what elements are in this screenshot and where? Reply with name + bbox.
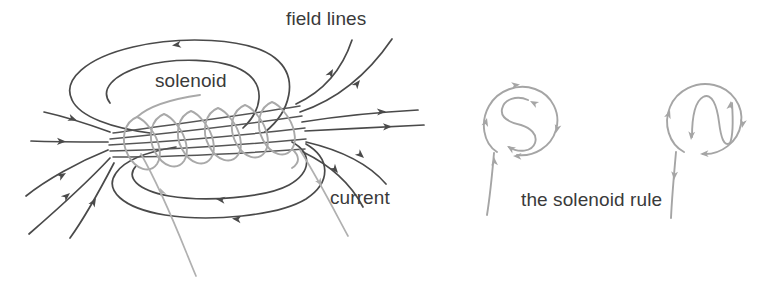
label-current: current bbox=[330, 187, 390, 209]
solenoid-figure: field lines solenoid current the solenoi… bbox=[0, 0, 768, 282]
label-field-lines: field lines bbox=[286, 8, 366, 30]
field-lines-left bbox=[26, 112, 114, 238]
label-solenoid: solenoid bbox=[155, 70, 227, 92]
label-solenoid-rule: the solenoid rule bbox=[521, 189, 662, 211]
solenoid-diagram-canvas bbox=[0, 0, 768, 282]
field-lines-right bbox=[296, 39, 424, 207]
rule-circle-north bbox=[664, 84, 747, 218]
current-leader-lines bbox=[141, 150, 348, 276]
